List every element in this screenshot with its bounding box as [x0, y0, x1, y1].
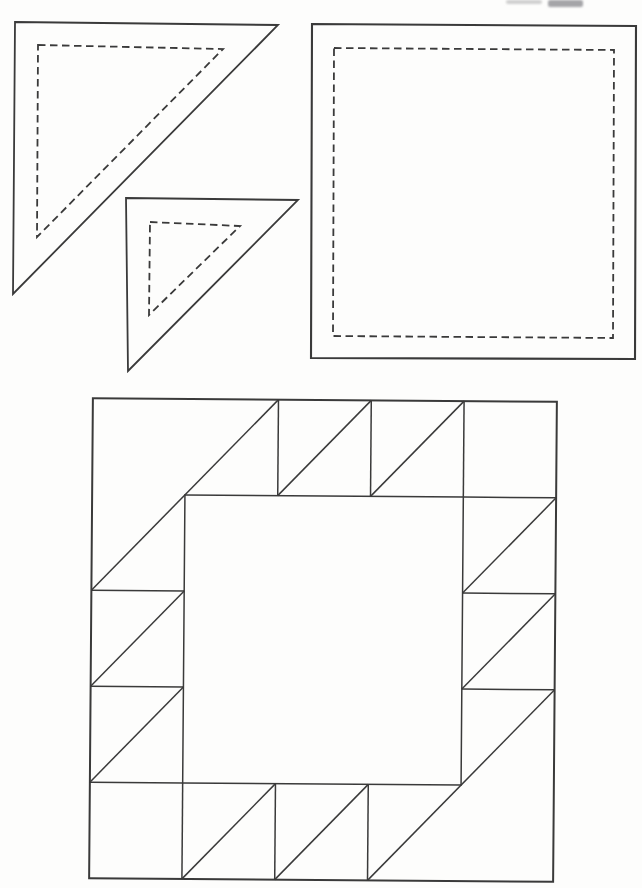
patch-grid-line: [91, 686, 184, 687]
triangle-seam-line: [91, 590, 185, 687]
patch-grid-line: [275, 784, 276, 880]
pattern-page: [0, 0, 642, 888]
triangle-seam-line: [275, 784, 369, 881]
patch-grid-line: [371, 400, 372, 496]
block-outline: [89, 398, 557, 882]
seam-stitching-line: [149, 222, 240, 315]
patch-grid-line: [462, 689, 555, 690]
patch-grid-line: [278, 400, 279, 496]
triangle-seam-line: [371, 400, 465, 497]
triangle-seam-line: [90, 686, 184, 783]
square-template: [311, 24, 636, 359]
patch-grid-line: [463, 497, 556, 498]
patch-grid-line: [91, 590, 184, 591]
patch-grid-line: [368, 784, 369, 880]
triangle-seam-line: [463, 497, 557, 594]
seam-stitching-line: [37, 45, 223, 237]
cutting-line: [311, 24, 636, 359]
triangle-seam-line: [278, 400, 372, 497]
patch-grid-line: [463, 593, 556, 594]
large-triangle-template: [13, 22, 278, 294]
center-square-outline: [183, 495, 464, 785]
triangle-seam-line: [182, 783, 276, 880]
seam-stitching-line: [333, 48, 614, 338]
small-triangle-template: [126, 198, 298, 371]
patch-grid-line: [90, 782, 183, 783]
quilt-block-diagram: [89, 398, 557, 882]
quilt-pattern-diagram: [0, 0, 642, 888]
cutting-line: [13, 22, 278, 294]
triangle-seam-line: [462, 593, 556, 690]
patch-grid-line: [463, 401, 464, 497]
patch-grid-line: [182, 783, 183, 879]
